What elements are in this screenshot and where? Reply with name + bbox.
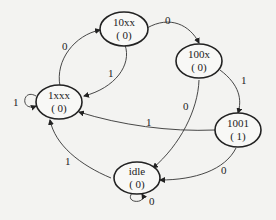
edge-label-1001-to-1xxx: 1 xyxy=(146,116,152,128)
state-name: 1001 xyxy=(227,117,249,129)
edge-1xxx-self-loop xyxy=(25,94,36,107)
state-output: ( 0) xyxy=(51,102,67,115)
state-100x: 100x ( 0) xyxy=(176,44,222,78)
edge-label-1xxx-self-loop: 1 xyxy=(13,96,19,108)
state-output: ( 1) xyxy=(230,130,246,143)
state-name: 100x xyxy=(188,48,211,60)
edge-label-100x-to-idle: 0 xyxy=(183,100,189,112)
state-output: ( 0) xyxy=(129,178,145,191)
state-name: idle xyxy=(129,165,146,177)
edge-10xx-to-1xxx xyxy=(84,45,127,96)
edge-label-10xx-to-1xxx: 1 xyxy=(108,67,114,79)
edge-label-100x-to-1001: 1 xyxy=(241,74,247,86)
edge-label-10xx-to-100x: 0 xyxy=(165,14,171,26)
edge-label-1xxx-to-10xx: 0 xyxy=(62,40,68,52)
edge-10xx-to-100x xyxy=(147,22,199,43)
edge-1xxx-to-10xx xyxy=(59,30,100,86)
state-1xxx: 1xxx ( 0) xyxy=(36,85,82,119)
state-diagram: 0 1 0 1 0 1 0 1 1 0 10xx ( 0) xyxy=(0,0,276,220)
edge-label-idle-to-1xxx: 1 xyxy=(65,155,71,167)
state-idle: idle ( 0) xyxy=(114,162,160,194)
edge-idle-to-1xxx xyxy=(50,120,111,178)
edge-label-idle-self-loop: 0 xyxy=(149,195,155,207)
edge-label-1001-to-idle: 0 xyxy=(221,164,227,176)
state-name: 1xxx xyxy=(48,89,71,101)
state-10xx: 10xx ( 0) xyxy=(100,12,148,46)
state-1001: 1001 ( 1) xyxy=(215,113,261,147)
state-name: 10xx xyxy=(113,16,136,28)
edge-100x-to-idle xyxy=(153,80,199,168)
state-output: ( 0) xyxy=(116,29,132,42)
diagram-svg: 0 1 0 1 0 1 0 1 1 0 10xx ( 0) xyxy=(0,0,276,220)
state-output: ( 0) xyxy=(191,61,207,74)
edge-100x-to-1001 xyxy=(220,70,240,113)
